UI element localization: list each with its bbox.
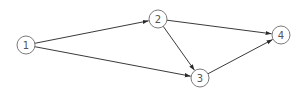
edge-1-to-2 [35,21,149,44]
edge-1-to-3 [35,47,191,76]
node-2[interactable]: 2 [149,10,167,28]
node-3[interactable]: 3 [191,69,209,87]
node-2-label: 2 [155,14,161,25]
node-4-label: 4 [278,30,284,41]
node-1-label: 1 [23,40,29,51]
node-3-label: 3 [197,73,203,84]
edge-2-to-4 [167,20,272,34]
node-1[interactable]: 1 [17,36,35,54]
edge-3-to-4 [208,40,273,74]
directed-graph: 1 2 3 4 [0,0,306,92]
edge-2-to-3 [163,26,194,70]
edges-group [35,20,273,76]
node-4[interactable]: 4 [272,26,290,44]
nodes-group: 1 2 3 4 [17,10,290,87]
graph-canvas: 1 2 3 4 [0,0,306,92]
